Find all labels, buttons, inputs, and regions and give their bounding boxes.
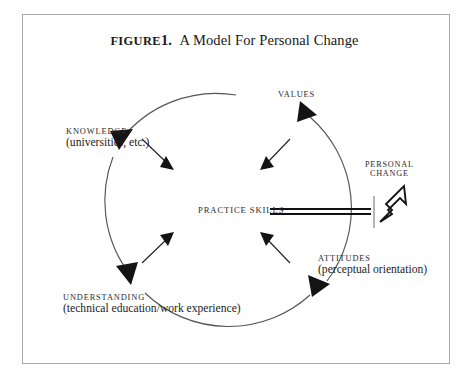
inward-arrow-line-values [266, 139, 290, 164]
node-name-understanding: UNDERSTANDING [63, 293, 241, 302]
figure-container: FIGURE1. A Model For Personal Change [0, 0, 469, 384]
inward-arrows [142, 139, 290, 263]
arrowhead-understanding [116, 262, 138, 285]
node-label-knowledge: KNOWLEDGE (universities, etc.) [66, 127, 149, 149]
node-label-values: VALUES [278, 90, 315, 99]
inward-arrow-line-understanding [142, 238, 168, 263]
arrowhead-values [297, 101, 317, 122]
node-label-understanding: UNDERSTANDING (technical education/work … [63, 293, 241, 315]
arrowhead-attitudes [308, 275, 330, 297]
node-label-attitudes: ATTITUDES (perceptual orientation) [318, 254, 427, 276]
diagram-canvas [0, 0, 469, 384]
node-label-practice-skills: PRACTICE SKILLS [198, 205, 284, 215]
node-name-personal-change-line2: CHANGE [365, 169, 414, 178]
node-name-values: VALUES [278, 90, 315, 99]
node-label-personal-change: PERSONAL CHANGE [365, 160, 414, 178]
node-name-personal-change-line1: PERSONAL [365, 160, 414, 169]
personal-change-hollow-arrow [380, 186, 406, 222]
inward-arrow-line-attitudes [266, 238, 290, 263]
practice-skills-bar [270, 209, 371, 214]
node-name-knowledge: KNOWLEDGE [66, 127, 149, 136]
node-detail-attitudes: (perceptual orientation) [318, 263, 427, 276]
node-name-practice-skills: PRACTICE SKILLS [198, 205, 284, 215]
node-name-attitudes: ATTITUDES [318, 254, 427, 263]
arc-knowledge-to-understanding [105, 157, 126, 269]
node-detail-knowledge: (universities, etc.) [66, 136, 149, 149]
node-detail-understanding: (technical education/work experience) [63, 302, 241, 315]
